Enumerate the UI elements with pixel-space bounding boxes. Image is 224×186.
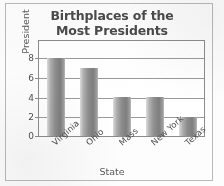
y-axis-label: President	[20, 0, 31, 77]
chart-title: Birthplaces of the Most Presidents	[22, 9, 202, 38]
y-tick-label-2: 2	[20, 113, 34, 122]
chart-title-line-2: Most Presidents	[22, 24, 202, 39]
x-axis-label: State	[0, 166, 224, 177]
y-tick-label-4: 4	[20, 94, 34, 103]
y-tick-label-0: 0	[20, 132, 34, 141]
bar-virginia	[47, 58, 65, 136]
bar-ohio	[80, 68, 98, 136]
y-tick-label-8: 8	[20, 54, 34, 63]
y-tick-label-6: 6	[20, 74, 34, 83]
chart-figure: Birthplaces of the Most Presidents Presi…	[0, 0, 224, 186]
chart-title-line-1: Birthplaces of the	[50, 8, 173, 23]
